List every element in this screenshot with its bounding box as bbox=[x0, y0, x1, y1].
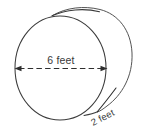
diameter-label: 6 feet bbox=[47, 54, 74, 66]
cylinder-figure: 6 feet 2 feet bbox=[0, 0, 143, 131]
top-tangent-line bbox=[52, 10, 100, 16]
cylinder-diagram-canvas: 6 feet 2 feet bbox=[0, 0, 143, 131]
depth-label: 2 feet bbox=[89, 107, 116, 128]
